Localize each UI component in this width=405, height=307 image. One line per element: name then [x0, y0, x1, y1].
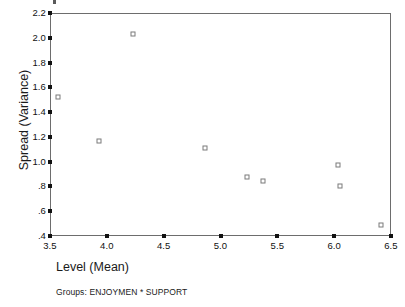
plot-data-area: [50, 13, 391, 236]
y-tick-mark: [48, 36, 52, 40]
y-tick-mark: [48, 11, 52, 15]
y-tick-mark: [48, 135, 52, 139]
y-tick-mark: [48, 160, 52, 164]
clipped-artifact-mark: [53, 0, 56, 4]
x-tick-label: 3.5: [33, 241, 67, 251]
data-point-marker: [55, 95, 60, 100]
x-axis-tick-labels: 3.54.04.55.05.56.06.5: [0, 239, 405, 251]
x-tick-label: 6.5: [374, 241, 405, 251]
x-tick-mark: [219, 234, 223, 238]
chart-footnote: Groups: ENJOYMEN * SUPPORT: [56, 287, 187, 297]
x-axis-title: Level (Mean): [56, 260, 129, 274]
y-axis-title: Spread (Variance): [17, 45, 31, 195]
x-tick-mark: [389, 234, 393, 238]
x-tick-mark: [275, 234, 279, 238]
x-tick-label: 6.0: [317, 241, 351, 251]
x-tick-label: 5.0: [204, 241, 238, 251]
y-tick-mark: [48, 110, 52, 114]
x-tick-mark: [332, 234, 336, 238]
x-tick-mark: [105, 234, 109, 238]
y-tick-label: .6: [20, 206, 46, 216]
y-tick-label: 2.2: [20, 8, 46, 18]
data-point-marker: [378, 222, 383, 227]
data-point-marker: [96, 138, 101, 143]
y-tick-mark: [48, 61, 52, 65]
data-point-marker: [202, 146, 207, 151]
data-point-marker: [337, 184, 342, 189]
data-point-marker: [130, 32, 135, 37]
y-tick-label: 2.0: [20, 33, 46, 43]
y-tick-mark: [48, 85, 52, 89]
x-tick-mark: [162, 234, 166, 238]
x-tick-label: 4.0: [90, 241, 124, 251]
data-point-marker: [260, 179, 265, 184]
x-tick-mark: [48, 234, 52, 238]
y-tick-mark: [48, 184, 52, 188]
x-tick-label: 4.5: [147, 241, 181, 251]
x-tick-label: 5.5: [260, 241, 294, 251]
spread-vs-level-plot: .4.6.81.01.21.41.61.82.02.2 3.54.04.55.0…: [0, 0, 405, 307]
y-tick-mark: [48, 209, 52, 213]
data-point-marker: [244, 174, 249, 179]
data-point-marker: [335, 163, 340, 168]
